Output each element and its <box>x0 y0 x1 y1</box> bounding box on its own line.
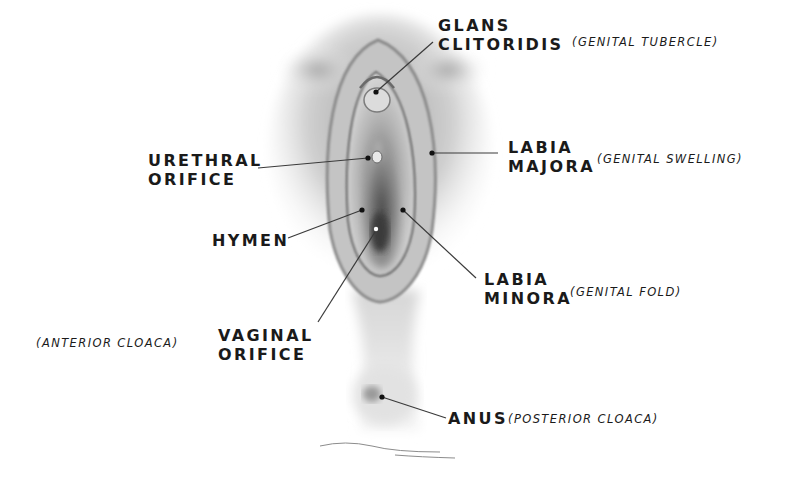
label-labia-minora: LABIA MINORA <box>484 270 572 308</box>
label-line: HYMEN <box>212 231 289 250</box>
label-line: MAJORA <box>508 157 595 176</box>
label-line: LABIA <box>484 270 572 289</box>
label-line: CLITORIDIS <box>438 35 563 54</box>
illustration <box>0 0 794 490</box>
label-anus: ANUS <box>448 409 508 428</box>
label-line: MINORA <box>484 289 572 308</box>
label-line: ORIFICE <box>218 345 314 364</box>
label-vaginal-orifice: VAGINAL ORIFICE <box>218 326 314 364</box>
label-line: LABIA <box>508 138 595 157</box>
label-glans-clitoridis: GLANS CLITORIDIS <box>438 16 563 54</box>
vaginal-orifice-marker <box>374 227 378 231</box>
note-genital-swelling: (GENITAL SWELLING) <box>597 152 743 166</box>
label-urethral-orifice: URETHRAL ORIFICE <box>148 151 263 189</box>
note-genital-tubercle: (GENITAL TUBERCLE) <box>572 35 719 49</box>
note-genital-fold: (GENITAL FOLD) <box>570 285 682 299</box>
anus-shape <box>363 386 381 402</box>
anatomical-diagram: GLANS CLITORIDIS (GENITAL TUBERCLE) URET… <box>0 0 794 490</box>
label-line: URETHRAL <box>148 151 263 170</box>
urethral-shape <box>372 151 382 163</box>
label-line: VAGINAL <box>218 326 314 345</box>
label-line: GLANS <box>438 16 563 35</box>
label-line: ORIFICE <box>148 170 263 189</box>
note-anterior-cloaca: (ANTERIOR CLOACA) <box>36 336 179 350</box>
label-hymen: HYMEN <box>212 231 289 250</box>
note-posterior-cloaca: (POSTERIOR CLOACA) <box>508 412 659 426</box>
label-line: ANUS <box>448 409 508 428</box>
label-labia-majora: LABIA MAJORA <box>508 138 595 176</box>
base-contour <box>320 443 455 458</box>
